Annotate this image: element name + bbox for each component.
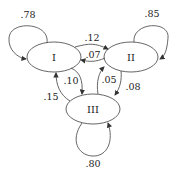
edge-label: .15 (43, 91, 58, 102)
node-II: II (104, 42, 158, 72)
node-I-label: I (52, 52, 56, 63)
edge-III-III: .80 (76, 123, 110, 169)
node-II-label: II (127, 52, 135, 63)
edge-label: .07 (85, 49, 100, 60)
markov-diagram: I II III .78 .85 .80 .12 .07 .10 .15 (0, 0, 176, 169)
edge-I-II: .12 (75, 32, 108, 49)
edge-I-I: .78 (9, 9, 47, 59)
edge-label: .85 (144, 8, 159, 19)
edge-label: .78 (20, 9, 35, 20)
node-III-label: III (87, 104, 99, 115)
edge-II-I: .07 (81, 49, 105, 61)
node-III: III (66, 94, 120, 124)
edge-I-III: .10 (63, 68, 82, 94)
edge-label: .08 (125, 81, 140, 92)
edge-II-II: .85 (134, 8, 168, 59)
edge-II-III: .08 (115, 71, 141, 95)
edge-label: .12 (84, 32, 99, 43)
node-I: I (27, 42, 81, 72)
edge-label: .80 (85, 158, 100, 169)
edge-III-II: .05 (97, 67, 116, 94)
edge-label: .05 (101, 74, 116, 85)
edge-label: .10 (63, 75, 78, 86)
